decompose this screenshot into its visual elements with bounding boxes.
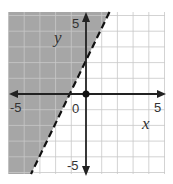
graph: -5 0 5 5 -5 y x: [0, 0, 173, 184]
y-tick-neg5: -5: [67, 158, 79, 173]
origin-label: 0: [72, 101, 79, 116]
x-tick-5: 5: [154, 100, 161, 115]
y-axis-label: y: [52, 28, 62, 47]
x-axis-label: x: [141, 114, 150, 133]
origin-point: [83, 91, 90, 98]
y-tick-5: 5: [72, 16, 79, 31]
x-tick-neg5: -5: [10, 100, 22, 115]
